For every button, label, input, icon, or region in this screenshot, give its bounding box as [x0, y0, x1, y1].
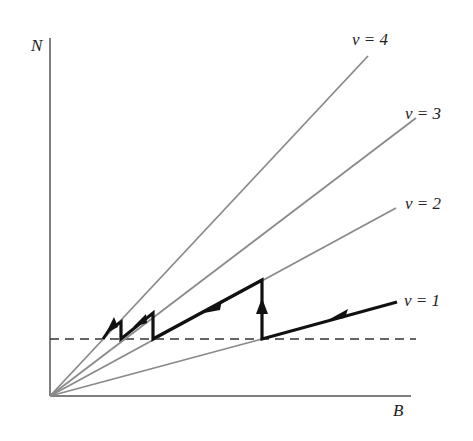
label-nu-3: ν = 3 [405, 104, 441, 124]
line-nu-3 [50, 118, 416, 396]
line-nu-4 [50, 56, 368, 396]
y-axis-label: N [31, 36, 42, 56]
arrow-icon [328, 309, 348, 320]
diagram-canvas [0, 0, 473, 441]
label-nu-4: ν = 4 [352, 30, 388, 50]
label-nu-1: ν = 1 [404, 291, 440, 311]
trajectory-path [109, 280, 397, 339]
label-nu-2: ν = 2 [405, 194, 441, 214]
line-nu-1-thin [50, 339, 262, 396]
arrow-icon [256, 298, 268, 314]
x-axis-label: B [393, 401, 403, 421]
